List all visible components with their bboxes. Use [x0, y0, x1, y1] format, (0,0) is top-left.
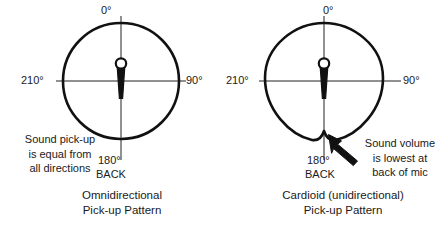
cardioid-caption-line-1: Cardioid (unidirectional) [243, 188, 443, 203]
omni-annotation-line-1: Sound pick-up [10, 132, 110, 147]
omni-caption-line-2: Pick-up Pattern [22, 203, 222, 218]
omni-angle-label-210: 210° [21, 74, 44, 87]
omni-angle-label-0: 0° [101, 4, 112, 17]
cardioid-angle-label-90: 90° [403, 74, 420, 87]
omni-annotation-line-3: all directions [10, 161, 110, 176]
cardioid-angle-label-0: 0° [323, 4, 334, 17]
cardioid-annotation-line-3: back of mic [357, 165, 443, 180]
omni-annotation: Sound pick-up is equal from all directio… [10, 132, 110, 176]
cardioid-back-label: BACK [305, 168, 335, 181]
omni-caption: Omnidirectional Pick-up Pattern [22, 188, 222, 217]
cardioid-annotation-line-1: Sound volume [357, 136, 443, 151]
cardioid-annotation: Sound volume is lowest at back of mic [357, 136, 443, 180]
cardioid-angle-label-210: 210° [226, 74, 249, 87]
microphone-icon [319, 58, 329, 98]
cardioid-annotation-line-2: is lowest at [357, 151, 443, 166]
omni-caption-line-1: Omnidirectional [22, 188, 222, 203]
cardioid-angle-label-180: 180° [307, 154, 330, 167]
microphone-icon [116, 58, 126, 98]
cardioid-caption: Cardioid (unidirectional) Pick-up Patter… [243, 188, 443, 217]
omni-annotation-line-2: is equal from [10, 147, 110, 162]
cardioid-caption-line-2: Pick-up Pattern [243, 203, 443, 218]
omni-angle-label-90: 90° [186, 74, 203, 87]
microphone-pattern-figure: 0° 210° 90° 180° BACK Sound pick-up is e… [0, 0, 447, 232]
